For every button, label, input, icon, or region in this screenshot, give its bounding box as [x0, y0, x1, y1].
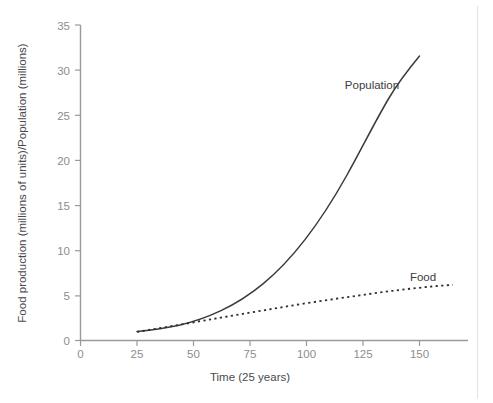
- x-tick-label: 150: [410, 348, 429, 360]
- x-axis-tick-labels: 0 25 50 75 100 125 150: [77, 348, 429, 360]
- x-axis-title: Time (25 years): [210, 371, 290, 383]
- population-vs-food-chart: 35 30 25 20 15 10 5 0 0 25 50 75 100 125: [0, 0, 493, 403]
- y-axis-ticks: [75, 25, 81, 341]
- x-tick-label: 25: [131, 348, 144, 360]
- y-axis-title: Food production (millions of units)/Popu…: [16, 43, 28, 322]
- y-tick-label: 25: [57, 110, 70, 122]
- y-tick-label: 15: [57, 200, 70, 212]
- population-curve: [137, 56, 420, 332]
- population-series-label: Population: [345, 79, 399, 91]
- food-curve: [137, 285, 453, 332]
- y-tick-label: 35: [57, 20, 70, 32]
- y-tick-label: 0: [64, 335, 70, 347]
- x-tick-label: 100: [297, 348, 316, 360]
- x-tick-label: 125: [353, 348, 372, 360]
- chart-container: 35 30 25 20 15 10 5 0 0 25 50 75 100 125: [0, 0, 493, 403]
- y-tick-label: 30: [57, 65, 70, 77]
- x-tick-label: 50: [187, 348, 200, 360]
- food-series-label: Food: [410, 271, 436, 283]
- y-axis-tick-labels: 35 30 25 20 15 10 5 0: [57, 20, 70, 348]
- x-tick-label: 75: [244, 348, 257, 360]
- x-axis-ticks: [81, 341, 420, 347]
- y-tick-label: 10: [57, 245, 70, 257]
- x-tick-label: 0: [77, 348, 83, 360]
- y-tick-label: 5: [64, 290, 70, 302]
- y-tick-label: 20: [57, 155, 70, 167]
